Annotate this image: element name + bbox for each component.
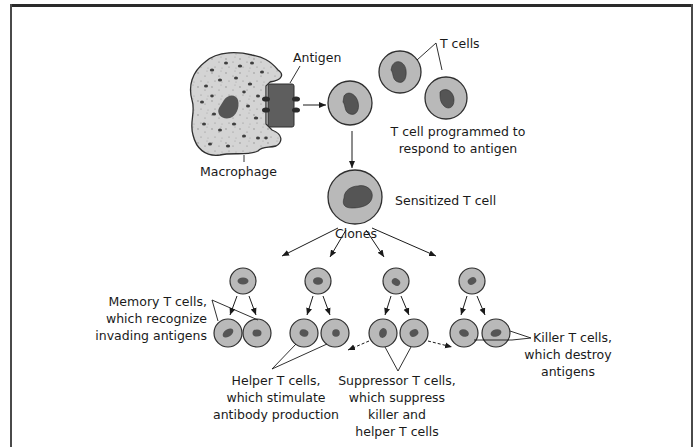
programmed-label-line1: T cell programmed to: [390, 124, 526, 139]
suppressor-label-line4: helper T cells: [355, 424, 438, 439]
t-cell-unprogrammed-2: [425, 77, 467, 119]
suppressor-t-cell-1: [369, 319, 397, 347]
helper-label-line2: which stimulate: [226, 390, 325, 405]
memory-label-line1: Memory T cells,: [109, 294, 207, 309]
t-cell-unprogrammed-1: [379, 51, 421, 93]
clone-parent-killer: [459, 268, 485, 294]
macrophage-label: Macrophage: [200, 164, 277, 179]
antigen: [262, 84, 300, 127]
clone-parent-suppressor: [383, 268, 409, 294]
memory-t-cell-2: [243, 319, 271, 347]
killer-label-line1: Killer T cells,: [533, 330, 612, 345]
suppressor-label-line1: Suppressor T cells,: [338, 373, 456, 388]
suppressor-leader-lines: [385, 347, 411, 371]
sensitized-label: Sensitized T cell: [395, 193, 496, 208]
t-cell-programmed: [328, 81, 372, 125]
antigen-label: Antigen: [293, 50, 341, 65]
killer-label-line2: which destroy: [524, 347, 612, 362]
suppressor-label-line3: killer and: [368, 407, 426, 422]
t-cells-label: T cells: [439, 36, 480, 51]
sensitized-t-cell: [328, 170, 382, 224]
memory-label-line3: invading antigens: [95, 328, 207, 343]
helper-label-line1: Helper T cells,: [232, 373, 321, 388]
programmed-label-line2: respond to antigen: [399, 141, 518, 156]
helper-t-cell-2: [321, 319, 349, 347]
clone-parent-helper: [305, 268, 331, 294]
division-arrows: [230, 296, 485, 315]
clones-label: Clones: [335, 226, 377, 241]
helper-t-cell-1: [290, 319, 318, 347]
killer-label-line3: antigens: [541, 364, 595, 379]
suppressor-dashed-arrows: [348, 341, 452, 350]
immune-response-diagram: Antigen Macrophage T cells T cell progra…: [0, 0, 699, 447]
clone-parent-memory: [230, 268, 256, 294]
antigen-leader-line: [290, 66, 300, 83]
memory-label-line2: which recognize: [106, 311, 207, 326]
memory-leader-lines: [212, 300, 258, 321]
memory-t-cell-1: [214, 319, 242, 347]
suppressor-t-cell-2: [400, 319, 428, 347]
suppressor-label-line2: which suppress: [349, 390, 445, 405]
helper-leader-lines: [272, 344, 327, 369]
killer-t-cell-1: [450, 319, 478, 347]
helper-label-line3: antibody production: [213, 407, 339, 422]
killer-t-cell-2: [482, 319, 510, 347]
